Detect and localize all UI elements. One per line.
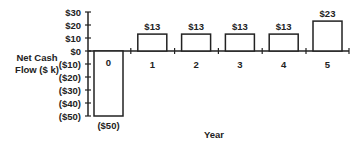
bar-year-1 bbox=[138, 34, 167, 51]
bar-year-5 bbox=[313, 21, 342, 51]
y-tick-label: ($20) bbox=[59, 72, 81, 83]
cash-flow-chart: $30$20$10$0($10)($20)($30)($40)($50) 0($… bbox=[0, 0, 364, 148]
x-category-label: 1 bbox=[150, 59, 156, 70]
y-axis-label-line2: Flow ($ k) bbox=[15, 64, 59, 75]
y-tick-label: $20 bbox=[65, 20, 81, 31]
y-tick-label: ($10) bbox=[59, 59, 81, 70]
bar-year-4 bbox=[269, 34, 298, 51]
x-axis-label: Year bbox=[204, 129, 224, 140]
y-tick-label: ($50) bbox=[59, 111, 81, 122]
x-category-label: 3 bbox=[237, 59, 242, 70]
x-axis bbox=[88, 48, 349, 54]
y-tick-label: ($40) bbox=[59, 98, 81, 109]
bars bbox=[94, 21, 342, 116]
x-category-label: 0 bbox=[106, 57, 111, 68]
bar-year-2 bbox=[182, 34, 211, 51]
data-label: $13 bbox=[232, 21, 248, 32]
x-category-label: 5 bbox=[325, 59, 331, 70]
data-label: ($50) bbox=[97, 120, 119, 131]
data-label: $23 bbox=[320, 8, 336, 19]
y-tick-label: $0 bbox=[70, 46, 81, 57]
data-label: $13 bbox=[276, 21, 292, 32]
y-tick-label: ($30) bbox=[59, 85, 81, 96]
y-axis: $30$20$10$0($10)($20)($30)($40)($50) bbox=[59, 7, 91, 122]
y-axis-label-line1: Net Cash bbox=[16, 52, 57, 63]
data-label: $13 bbox=[188, 21, 204, 32]
x-category-label: 2 bbox=[193, 59, 198, 70]
x-category-label: 4 bbox=[281, 59, 287, 70]
y-tick-label: $30 bbox=[65, 7, 81, 18]
bar-year-3 bbox=[225, 34, 254, 51]
data-label: $13 bbox=[144, 21, 160, 32]
y-tick-label: $10 bbox=[65, 33, 81, 44]
